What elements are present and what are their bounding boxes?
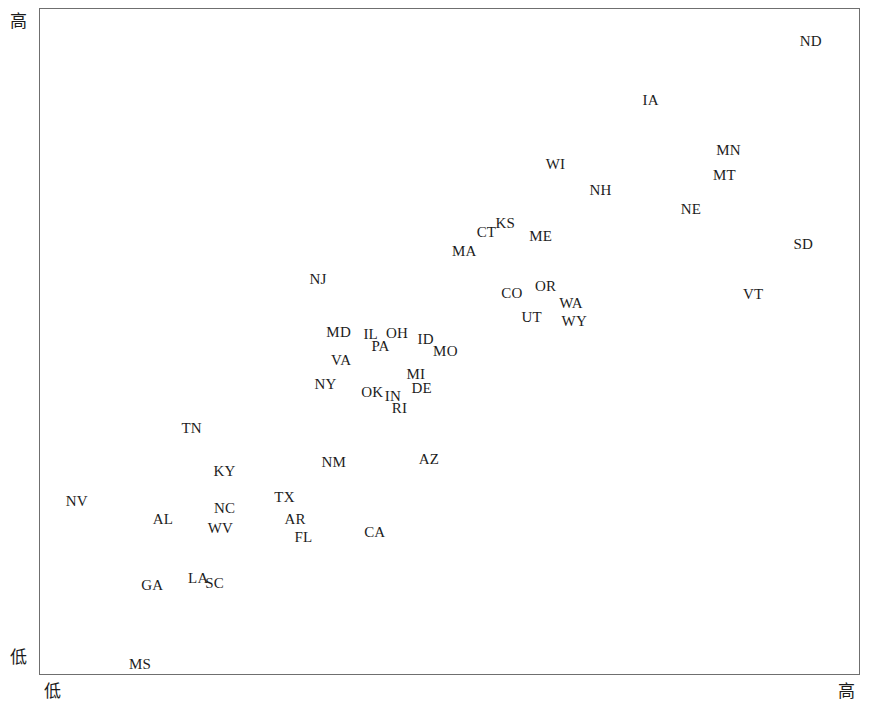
scatter-point-label: ND xyxy=(800,34,822,49)
scatter-point-label: GA xyxy=(141,577,163,592)
scatter-point-label: SC xyxy=(205,575,224,590)
scatter-point-label: DE xyxy=(411,380,431,395)
scatter-point-label: MO xyxy=(433,343,458,358)
scatter-point-label: MS xyxy=(129,657,151,672)
scatter-point-label: AZ xyxy=(419,451,439,466)
y-axis-high-label: 高 xyxy=(10,12,27,30)
scatter-point-label: KS xyxy=(496,215,516,230)
x-axis-low-label: 低 xyxy=(44,682,61,700)
scatter-point-label: UT xyxy=(521,310,541,325)
scatter-point-label: NJ xyxy=(310,272,327,287)
scatter-point-label: RI xyxy=(392,401,407,416)
scatter-point-label: FL xyxy=(294,529,312,544)
scatter-point-label: VT xyxy=(743,287,763,302)
scatter-point-label: WY xyxy=(562,314,587,329)
scatter-point-label: MD xyxy=(326,325,351,340)
scatter-point-label: WA xyxy=(559,295,583,310)
y-axis-low-label: 低 xyxy=(10,648,27,666)
scatter-point-label: TX xyxy=(274,489,294,504)
scatter-point-label: MN xyxy=(716,143,741,158)
x-axis-high-label: 高 xyxy=(838,682,855,700)
scatter-point-label: MT xyxy=(713,168,736,183)
scatter-point-label: OK xyxy=(361,384,383,399)
scatter-point-label: NC xyxy=(214,500,235,515)
scatter-point-label: WI xyxy=(546,157,566,172)
scatter-point-label: MA xyxy=(452,243,477,258)
x-axis-title xyxy=(338,706,548,719)
scatter-point-label: IA xyxy=(643,93,659,108)
scatter-point-label: ID xyxy=(418,331,434,346)
scatter-point-label: TN xyxy=(182,420,202,435)
scatter-point-label: NM xyxy=(321,455,346,470)
scatter-point-label: AL xyxy=(153,511,173,526)
scatter-point-label: CT xyxy=(477,225,497,240)
scatter-point-label: ME xyxy=(529,229,552,244)
scatter-point-label: SD xyxy=(794,237,814,252)
scatter-point-label: KY xyxy=(213,463,235,478)
scatter-point-label: OR xyxy=(535,279,556,294)
scatter-point-label: NY xyxy=(314,376,336,391)
scatter-point-label: CA xyxy=(364,524,385,539)
scatter-chart: 高 低 低 高 NDIAMNMTWINHNEKSCTMEMASDNJORCOWA… xyxy=(0,0,871,719)
scatter-point-label: NH xyxy=(590,183,612,198)
scatter-point-label: NE xyxy=(681,202,701,217)
scatter-point-label: VA xyxy=(331,353,351,368)
scatter-point-label: CO xyxy=(501,285,522,300)
scatter-point-label: NV xyxy=(66,493,88,508)
scatter-point-label: AR xyxy=(285,511,306,526)
scatter-point-label: WV xyxy=(208,521,233,536)
scatter-point-label: PA xyxy=(371,339,389,354)
